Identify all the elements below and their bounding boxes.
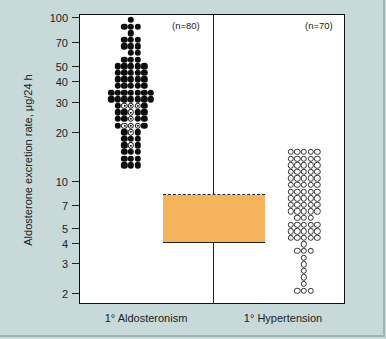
y-tick-mark xyxy=(72,293,79,294)
normal-range-lower-line xyxy=(163,242,265,244)
y-tick-mark xyxy=(72,102,79,103)
y-tick-label: 10 xyxy=(56,176,68,187)
y-tick-mark xyxy=(72,181,79,182)
y-tick-mark xyxy=(72,228,79,229)
y-tick-label: 7 xyxy=(62,200,68,211)
normal-range-band xyxy=(163,195,265,242)
y-tick-label: 20 xyxy=(56,127,68,138)
y-tick-label: 5 xyxy=(62,223,68,234)
y-axis-label: Aldosterone excretion rate, μg/24 h xyxy=(22,74,34,245)
normal-range-upper-line xyxy=(163,194,265,195)
y-tick-label: 3 xyxy=(62,258,68,269)
y-tick-label: 40 xyxy=(56,76,68,87)
y-tick-mark xyxy=(72,42,79,43)
n-label-aldosteronism: (n=80) xyxy=(172,20,200,31)
y-tick-label: 100 xyxy=(50,12,68,23)
y-tick-label: 30 xyxy=(56,97,68,108)
y-tick-label: 2 xyxy=(62,288,68,299)
y-tick-label: 50 xyxy=(56,61,68,72)
y-tick-mark xyxy=(72,243,79,244)
n-label-hypertension: (n=70) xyxy=(305,20,333,31)
y-tick-mark xyxy=(72,66,79,67)
y-tick-mark xyxy=(72,205,79,206)
y-tick-label: 70 xyxy=(56,37,68,48)
y-tick-mark xyxy=(72,263,79,264)
y-tick-mark xyxy=(72,17,79,18)
group-divider xyxy=(213,14,214,304)
x-label-aldosteronism: 1° Aldosteronism xyxy=(105,312,188,324)
y-tick-mark xyxy=(72,132,79,133)
y-tick-mark xyxy=(72,81,79,82)
x-label-hypertension: 1° Hypertension xyxy=(244,312,322,324)
y-tick-label: 4 xyxy=(62,238,68,249)
